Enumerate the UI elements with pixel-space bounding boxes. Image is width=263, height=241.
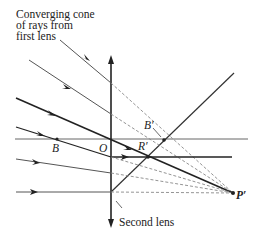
lens-down-arrow-icon — [108, 219, 114, 228]
ray-2 — [29, 60, 111, 114]
lens-up-arrow-icon — [108, 55, 114, 64]
point-B-prime — [162, 138, 166, 142]
ray-4 — [16, 127, 111, 157]
label-R-prime: R′ — [138, 141, 148, 152]
ray-1 — [60, 40, 111, 83]
ray-5 — [16, 159, 111, 173]
image-plane-line — [111, 73, 234, 192]
point-B — [55, 137, 58, 140]
caption-line-3: first lens — [16, 31, 95, 42]
label-P-prime: P′ — [236, 190, 246, 201]
label-O: O — [99, 143, 107, 154]
caption-cone: Converging cone of rays from first lens — [16, 9, 95, 42]
caption-second-lens: Second lens — [119, 217, 174, 228]
point-R-prime — [146, 155, 150, 159]
label-B: B — [52, 143, 59, 154]
label-B-prime: B′ — [144, 120, 154, 131]
point-P-prime — [231, 191, 235, 195]
